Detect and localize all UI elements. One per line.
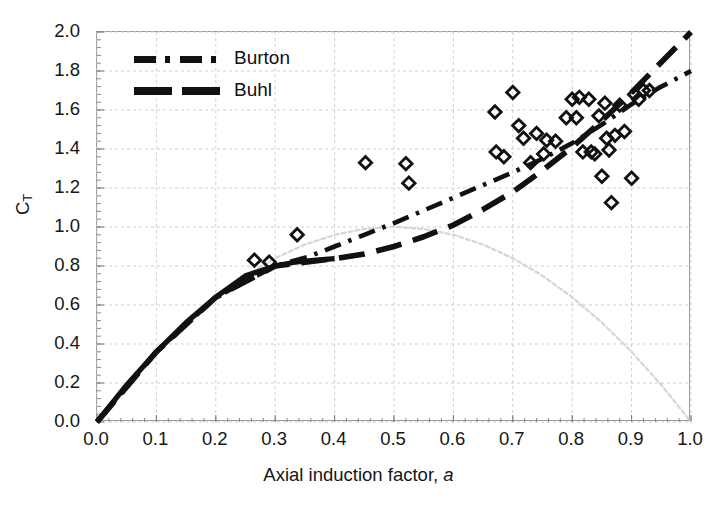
y-tick-label: 1.4 xyxy=(34,139,80,158)
scatter-marker xyxy=(403,177,415,189)
scatter-marker xyxy=(490,146,502,158)
legend-swatch-buhl xyxy=(134,87,220,95)
y-tick-label: 1.8 xyxy=(34,61,80,80)
scatter-marker xyxy=(517,132,529,144)
scatter-marker xyxy=(537,148,549,160)
x-tick-label: 0.2 xyxy=(185,430,245,449)
scatter-marker xyxy=(513,119,525,131)
plot-area: Burton Buhl xyxy=(96,31,690,421)
chart-figure: 0.00.20.40.60.81.01.21.41.61.82.0 CT Bur… xyxy=(0,0,717,512)
x-tick-label: 1.0 xyxy=(660,430,717,449)
x-tick-label: 0.3 xyxy=(244,430,304,449)
scatter-marker xyxy=(400,157,412,169)
y-axis-title: CT xyxy=(12,194,35,215)
legend-item-buhl: Buhl xyxy=(134,77,344,109)
legend-label-buhl: Buhl xyxy=(234,78,272,102)
scatter-marker xyxy=(593,110,605,122)
y-tick-label: 0.6 xyxy=(34,295,80,314)
y-axis-title-subscript: T xyxy=(20,194,35,202)
x-tick-label: 0.8 xyxy=(541,430,601,449)
scatter-marker xyxy=(530,127,542,139)
x-tick-label: 0.9 xyxy=(601,430,661,449)
scatter-marker xyxy=(596,170,608,182)
legend-item-burton: Burton xyxy=(134,45,344,77)
x-axis-title: Axial induction factor, a xyxy=(0,464,717,486)
x-tick-label: 0.7 xyxy=(482,430,542,449)
y-tick-label: 0.0 xyxy=(34,412,80,431)
scatter-marker xyxy=(625,172,637,184)
scatter-marker xyxy=(248,254,260,266)
scatter-marker xyxy=(603,144,615,156)
y-tick-label: 1.0 xyxy=(34,217,80,236)
x-axis-title-text: Axial induction factor, xyxy=(263,464,443,485)
y-tick-label: 2.0 xyxy=(34,22,80,41)
x-tick-label: 0.5 xyxy=(363,430,423,449)
scatter-marker xyxy=(359,156,371,168)
y-axis-title-base: C xyxy=(12,202,33,215)
scatter-marker xyxy=(599,97,611,109)
x-tick-label: 0.6 xyxy=(422,430,482,449)
y-tick-label: 0.4 xyxy=(34,334,80,353)
scatter-marker xyxy=(524,156,536,168)
scatter-marker xyxy=(570,112,582,124)
scatter-marker xyxy=(577,146,589,158)
x-tick-label: 0.1 xyxy=(125,430,185,449)
x-axis-title-variable: a xyxy=(443,464,453,485)
scatter-marker xyxy=(498,151,510,163)
legend: Burton Buhl xyxy=(134,45,344,109)
x-tick-label: 0.4 xyxy=(304,430,364,449)
legend-swatch-burton xyxy=(134,56,220,63)
y-tick-label: 1.6 xyxy=(34,100,80,119)
scatter-marker xyxy=(614,99,626,111)
y-tick-label: 0.2 xyxy=(34,373,80,392)
legend-label-burton: Burton xyxy=(234,46,290,70)
y-tick-label: 0.8 xyxy=(34,256,80,275)
scatter-marker xyxy=(291,229,303,241)
scatter-marker xyxy=(489,106,501,118)
scatter-marker xyxy=(263,256,275,268)
y-tick-label: 1.2 xyxy=(34,178,80,197)
x-axis-tick-labels: 0.00.10.20.30.40.50.60.70.80.91.0 xyxy=(0,430,717,456)
x-tick-label: 0.0 xyxy=(66,430,126,449)
scatter-marker xyxy=(507,86,519,98)
scatter-marker xyxy=(605,196,617,208)
